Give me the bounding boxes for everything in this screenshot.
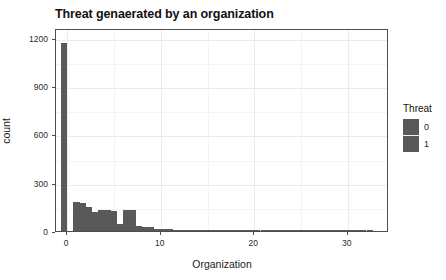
y-axis-tick-mark	[52, 87, 55, 88]
gridline-major-vertical	[67, 30, 68, 231]
histogram-bar	[323, 230, 329, 231]
y-axis-tick-label: 300	[17, 179, 48, 189]
y-axis-tick-label: 900	[17, 82, 48, 92]
histogram-bar	[342, 230, 348, 231]
y-axis-tick-mark	[52, 39, 55, 40]
x-axis-tick-mark	[160, 232, 161, 235]
histogram-bar	[154, 229, 160, 231]
gridline-minor-vertical	[208, 30, 209, 231]
x-axis-tick-label: 30	[332, 238, 362, 248]
gridline-major-vertical	[161, 30, 162, 231]
legend-key-swatch	[403, 119, 419, 135]
histogram-bar	[229, 230, 235, 231]
y-axis-tick-label: 0	[17, 227, 48, 237]
y-axis-tick-mark	[52, 184, 55, 185]
x-axis-title: Organization	[55, 258, 389, 270]
histogram-bar	[348, 230, 354, 231]
histogram-bar	[254, 230, 260, 231]
legend-entry-label: 0	[424, 122, 429, 132]
legend-entries: 01	[403, 118, 446, 152]
histogram-bar	[61, 43, 67, 231]
chart-legend: Threat 01	[403, 103, 446, 152]
gridline-major-horizontal	[56, 40, 387, 41]
gridline-minor-vertical	[114, 30, 115, 231]
gridline-major-horizontal	[56, 136, 387, 137]
gridline-major-vertical	[348, 30, 349, 231]
x-axis-tick-mark	[347, 232, 348, 235]
histogram-bar	[248, 230, 254, 231]
histogram-bar	[179, 230, 185, 231]
gridline-major-horizontal	[56, 185, 387, 186]
histogram-bar	[304, 230, 310, 231]
histogram-bar	[285, 230, 291, 231]
histogram-bar	[236, 230, 242, 231]
legend-entry: 1	[403, 135, 446, 152]
histogram-bar	[310, 230, 316, 231]
gridline-major-vertical	[254, 30, 255, 231]
chart-figure: Threat genaerated by an organization cou…	[0, 0, 446, 280]
histogram-bar	[105, 210, 111, 231]
histogram-bar	[80, 203, 86, 231]
histogram-bar	[117, 224, 123, 231]
histogram-bar	[98, 210, 104, 231]
histogram-bar	[217, 230, 223, 231]
chart-title: Threat genaerated by an organization	[55, 7, 395, 21]
x-axis-tick-label: 20	[238, 238, 268, 248]
y-axis-tick-label: 1200	[17, 34, 48, 44]
y-axis-tick-mark	[52, 232, 55, 233]
histogram-bar	[211, 230, 217, 231]
histogram-bar	[198, 230, 204, 231]
gridline-minor-vertical	[301, 30, 302, 231]
gridline-major-horizontal	[56, 88, 387, 89]
legend-title: Threat	[403, 103, 446, 114]
x-axis-tick-label: 0	[51, 238, 81, 248]
gridline-minor-horizontal	[56, 64, 387, 65]
histogram-bar	[161, 229, 167, 231]
gridline-minor-horizontal	[56, 112, 387, 113]
histogram-bar	[267, 230, 273, 231]
histogram-bar	[292, 230, 298, 231]
y-axis-tick-mark	[52, 135, 55, 136]
histogram-bar	[273, 230, 279, 231]
histogram-bar	[136, 226, 142, 231]
legend-key-swatch	[403, 135, 419, 152]
histogram-bar	[142, 227, 148, 232]
histogram-bar	[173, 230, 179, 231]
histogram-bar	[360, 230, 366, 231]
y-axis-tick-label: 600	[17, 130, 48, 140]
legend-entry: 0	[403, 118, 446, 135]
histogram-bar	[123, 210, 129, 231]
legend-entry-label: 1	[424, 139, 429, 149]
x-axis-tick-mark	[66, 232, 67, 235]
y-axis-title: count	[0, 29, 14, 234]
plot-panel	[55, 29, 388, 232]
gridline-minor-horizontal	[56, 161, 387, 162]
x-axis-tick-mark	[253, 232, 254, 235]
x-axis-tick-label: 10	[145, 238, 175, 248]
histogram-bar	[329, 230, 335, 231]
histogram-bar	[192, 230, 198, 231]
histogram-bar	[367, 230, 373, 231]
histogram-bar	[86, 207, 92, 231]
